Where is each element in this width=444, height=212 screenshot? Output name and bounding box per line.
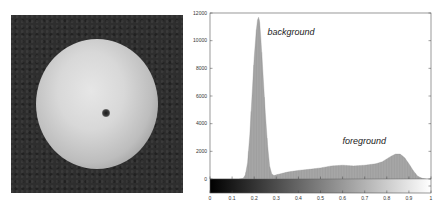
x-tick-label: 0.3 — [273, 195, 280, 201]
histogram-chart: 00.10.20.30.40.50.60.70.80.91 0200040006… — [0, 0, 444, 212]
x-tick-label: 0.6 — [339, 195, 346, 201]
y-tick-label: 8000 — [196, 65, 207, 71]
x-tick-label: 0.1 — [229, 195, 236, 201]
y-tick-label: 10000 — [193, 37, 207, 43]
y-tick-label: 12000 — [193, 10, 207, 16]
x-tick-label: 0.9 — [405, 195, 412, 201]
x-tick-label: 0 — [209, 195, 212, 201]
annotation-background: background — [267, 27, 315, 37]
x-tick-label: 1 — [430, 195, 433, 201]
y-tick-label: 0 — [204, 176, 207, 182]
x-tick-label: 0.8 — [383, 195, 390, 201]
x-tick-label: 0.2 — [251, 195, 258, 201]
x-tick-label: 0.4 — [295, 195, 302, 201]
y-tick-label: 2000 — [196, 148, 207, 154]
y-tick-label: 4000 — [196, 120, 207, 126]
x-tick-label: 0.5 — [317, 195, 324, 201]
y-tick-label: 6000 — [196, 93, 207, 99]
x-tick-label: 0.7 — [361, 195, 368, 201]
annotation-foreground: foreground — [343, 136, 388, 146]
